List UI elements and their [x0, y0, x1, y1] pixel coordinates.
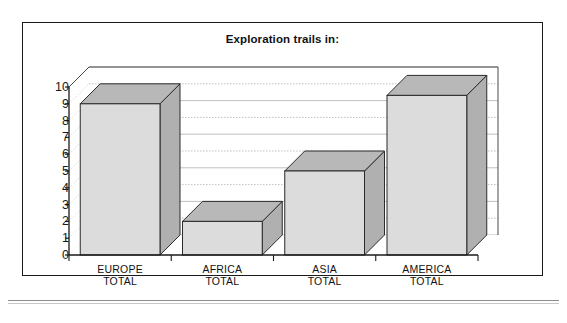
plot-area	[23, 23, 544, 277]
category-label-line: ASIA	[274, 263, 376, 275]
y-axis-tick-labels: 109876543210	[45, 23, 69, 277]
y-tick-label: 4	[47, 182, 69, 195]
bar-side-face	[467, 75, 487, 255]
bar-asia-total	[285, 151, 385, 255]
bar-side-face	[160, 84, 180, 255]
category-label-line: AFRICA	[171, 263, 273, 275]
bar-front-face[interactable]	[387, 95, 467, 255]
bar-front-face[interactable]	[80, 104, 160, 255]
y-tick-label: 3	[47, 198, 69, 211]
y-tick-label: 9	[47, 98, 69, 111]
scan-artifact-rule	[8, 300, 559, 301]
x-axis-category-labels: EUROPETOTALAFRICATOTALASIATOTALAMERICATO…	[23, 245, 544, 285]
scan-artifact-rule-secondary	[8, 303, 559, 304]
bar-front-face[interactable]	[285, 171, 365, 255]
y-tick-label: 5	[47, 165, 69, 178]
bar-chart-svg	[23, 23, 544, 277]
category-label-line: EUROPE	[69, 263, 171, 275]
x-category-label: AFRICATOTAL	[171, 263, 273, 288]
category-label-line: TOTAL	[69, 275, 171, 287]
y-tick-label: 1	[47, 232, 69, 245]
y-tick-label: 6	[47, 148, 69, 161]
x-category-label: ASIATOTAL	[274, 263, 376, 288]
y-tick-label: 10	[47, 81, 69, 94]
category-label-line: AMERICA	[376, 263, 478, 275]
y-tick-label: 2	[47, 215, 69, 228]
chart-figure-frame: Exploration trails in: 109876543210 EURO…	[22, 22, 543, 276]
bar-europe-total	[80, 84, 180, 255]
bar-america-total	[387, 75, 487, 255]
y-tick-label: 8	[47, 114, 69, 127]
category-label-line: TOTAL	[376, 275, 478, 287]
category-label-line: TOTAL	[274, 275, 376, 287]
x-category-label: AMERICATOTAL	[376, 263, 478, 288]
category-label-line: TOTAL	[171, 275, 273, 287]
y-tick-label: 7	[47, 131, 69, 144]
x-category-label: EUROPETOTAL	[69, 263, 171, 288]
